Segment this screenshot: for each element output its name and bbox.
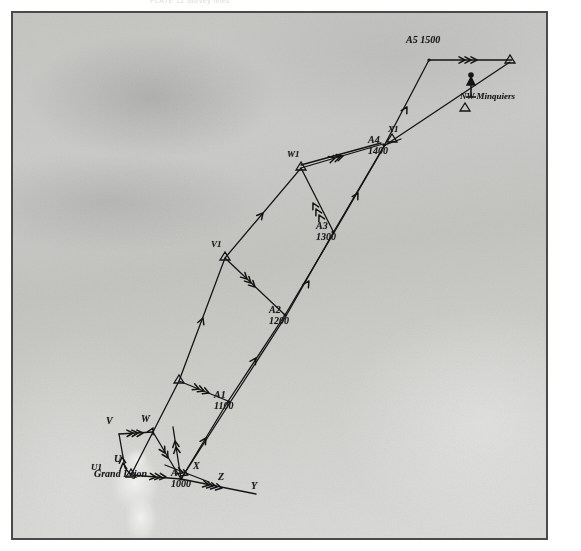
station-symbols (126, 55, 515, 477)
station-a3-num: 1300 (316, 232, 336, 243)
station-a2-id: A2 (269, 305, 289, 316)
label-mark-w: W (141, 414, 150, 425)
label-station-a2: A2 1200 (269, 305, 289, 326)
label-station-a: A 1000 (171, 468, 191, 489)
station-a1-num: 1100 (214, 401, 233, 412)
label-beacon-nw-minquiers: NW Minquiers (460, 92, 515, 101)
page-root: PLATE 12 Survey lines (0, 0, 581, 551)
station-nodes (179, 58, 430, 480)
label-station-a1: A1 1100 (214, 390, 233, 411)
chart-plate: V W U X Z Y U1 V1 W1 X1 Grand Léjon NW M… (11, 11, 548, 540)
label-mark-x1: X1 (388, 125, 399, 134)
station-a-id: A (171, 468, 191, 479)
station-a1-id: A1 (214, 390, 233, 401)
label-beacon-grand-lejon: Grand Léjon (94, 469, 147, 480)
label-mark-z: Z (218, 472, 224, 483)
label-mark-v: V (106, 416, 113, 427)
line-traverse-main (181, 60, 429, 479)
direction-arrows (119, 57, 477, 491)
label-station-a4: A4 1400 (368, 135, 388, 156)
station-a3-id: A3 (316, 221, 336, 232)
triangle-minquiers-mark (460, 103, 470, 111)
label-mark-w1: W1 (287, 150, 300, 159)
line-u-to-w1 (131, 144, 383, 475)
plate-caption: PLATE 12 Survey lines (150, 0, 310, 6)
survey-lines (119, 60, 512, 494)
label-mark-y: Y (251, 481, 257, 492)
label-station-a5: A5 1500 (406, 35, 440, 46)
label-mark-u: U (114, 454, 121, 465)
station-a4-num: 1400 (368, 146, 388, 157)
station-a4-id: A4 (368, 135, 388, 146)
station-a2-num: 1200 (269, 316, 289, 327)
station-a-num: 1000 (171, 479, 191, 490)
label-station-a3: A3 1300 (316, 221, 336, 242)
label-mark-v1: V1 (211, 240, 222, 249)
line-a4-to-minquiers (384, 62, 510, 146)
label-mark-x: X (193, 461, 200, 472)
